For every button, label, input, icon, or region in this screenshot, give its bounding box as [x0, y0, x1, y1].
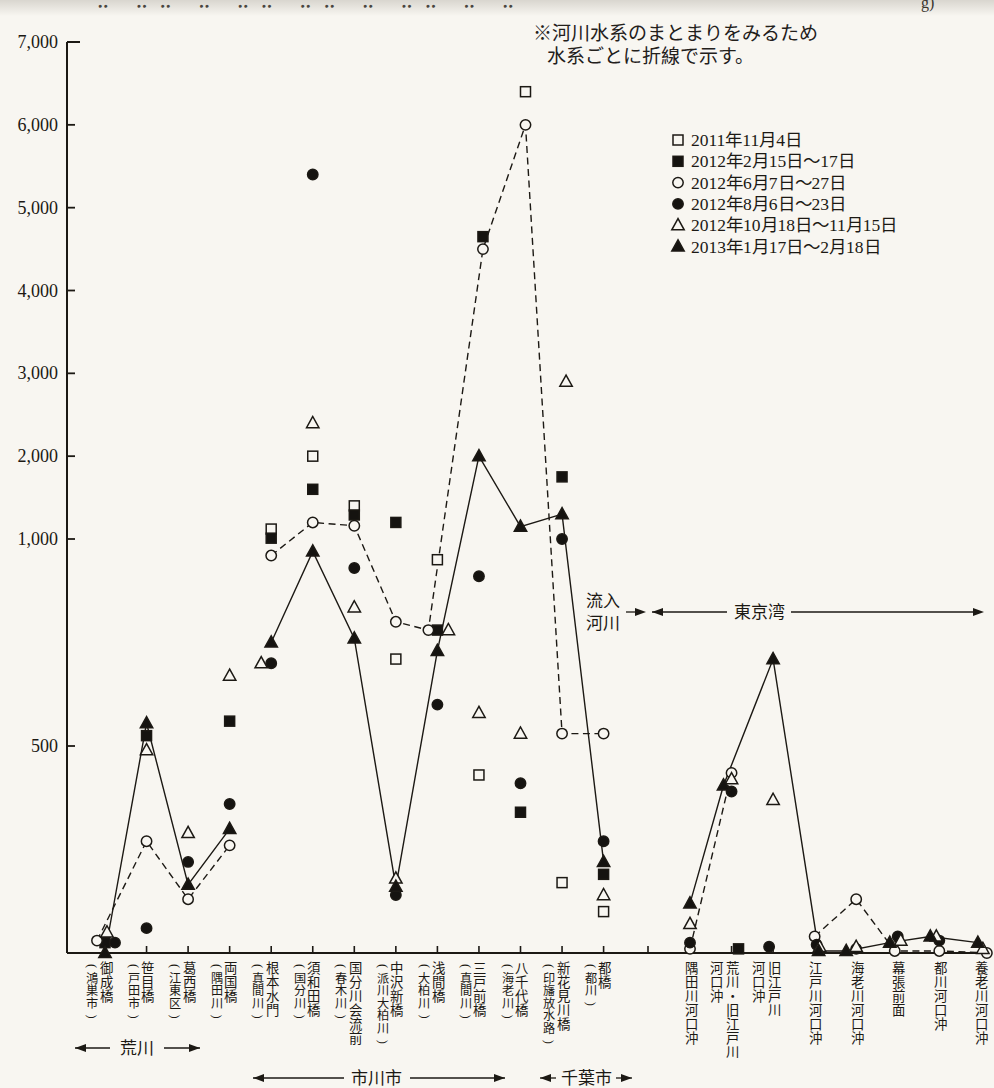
- svg-text:老: 老: [851, 975, 864, 990]
- svg-text:(: (: [251, 964, 265, 968]
- station-river-label: (鴻巣市): [85, 964, 99, 1018]
- svg-text:橋: 橋: [432, 989, 446, 1004]
- svg-text:(: (: [417, 964, 431, 968]
- svg-text:沖: 沖: [685, 1031, 698, 1046]
- region-label-arakawa: 荒川: [120, 1039, 154, 1058]
- svg-text:須: 須: [307, 961, 321, 976]
- svg-text:): ): [85, 1014, 99, 1018]
- station-name-label: 中沢新橋: [390, 961, 404, 1018]
- legend-label: 2012年10月18日〜11月15日: [691, 215, 897, 235]
- svg-text:流: 流: [349, 1017, 362, 1032]
- svg-text:口: 口: [975, 1017, 988, 1032]
- svg-text:口: 口: [851, 1017, 864, 1032]
- square-filled-icon: [673, 156, 683, 166]
- station-river-label: (春木川): [334, 964, 348, 1018]
- station-name-label: 江戸川河口沖: [809, 961, 822, 1046]
- legend-label: 2011年11月4日: [691, 130, 802, 150]
- station-name-label: 国分川会流前: [349, 961, 362, 1046]
- svg-text:沖: 沖: [975, 1031, 988, 1046]
- svg-text:): ): [584, 1002, 598, 1006]
- svg-text:前: 前: [473, 988, 486, 1004]
- solid-line-jan2013: [271, 456, 603, 887]
- svg-text:沖: 沖: [752, 989, 765, 1004]
- svg-text:(: (: [501, 964, 515, 968]
- circle-filled-icon: [673, 199, 683, 209]
- svg-text:戸: 戸: [809, 975, 822, 990]
- svg-text:目: 目: [141, 975, 154, 990]
- y-tick-label: 5,000: [18, 198, 59, 218]
- svg-text:花: 花: [557, 975, 570, 990]
- svg-text:川: 川: [768, 1003, 781, 1018]
- svg-text:川: 川: [335, 997, 347, 1011]
- station-name-cont-label: 河口沖: [752, 961, 765, 1004]
- station-river-label: (江東区): [168, 964, 182, 1018]
- circle-open-icon: [673, 177, 683, 187]
- svg-text:橋: 橋: [183, 989, 197, 1004]
- station-river-label: (隅田川): [210, 964, 224, 1018]
- station-name-label: 八千代橋: [515, 961, 529, 1018]
- y-tick-label: 3,000: [18, 363, 59, 383]
- svg-text:江: 江: [726, 1017, 739, 1032]
- svg-text:橋: 橋: [141, 989, 155, 1004]
- svg-text:橋: 橋: [307, 1003, 321, 1018]
- svg-text:江: 江: [809, 961, 822, 976]
- svg-text:(: (: [127, 964, 141, 968]
- svg-text:川: 川: [934, 975, 947, 990]
- svg-text:橋: 橋: [100, 989, 114, 1004]
- svg-text:(: (: [376, 964, 390, 968]
- svg-text:市: 市: [86, 996, 98, 1011]
- svg-text:葛: 葛: [183, 961, 196, 976]
- svg-text:橋: 橋: [390, 1003, 404, 1018]
- svg-text:区: 区: [169, 997, 181, 1011]
- station-river-label: (真間川): [459, 964, 473, 1018]
- svg-text:戸: 戸: [473, 975, 486, 990]
- svg-text:前: 前: [349, 1030, 362, 1046]
- svg-text:養: 養: [975, 960, 988, 976]
- region-label-tokyo-bay: 東京湾: [734, 603, 785, 622]
- solid-line-jan2013: [690, 659, 978, 951]
- svg-text:江: 江: [768, 975, 781, 990]
- svg-text:): ): [417, 1014, 431, 1018]
- station-name-label: 荒川・旧江戸川: [726, 961, 739, 1060]
- svg-text:旧: 旧: [768, 961, 781, 976]
- y-tick-label: 7,000: [18, 32, 59, 52]
- svg-text:(: (: [85, 964, 99, 968]
- station-name-label: 浅間橋: [432, 961, 446, 1004]
- svg-text:分: 分: [349, 975, 362, 990]
- svg-text:(: (: [459, 964, 473, 968]
- svg-text:海: 海: [851, 961, 864, 976]
- svg-text:川: 川: [975, 989, 988, 1004]
- svg-text:河: 河: [685, 1003, 698, 1018]
- svg-text:): ): [334, 1014, 348, 1018]
- svg-text:八: 八: [515, 961, 529, 976]
- station-name-cont-label: 河口沖: [710, 961, 723, 1004]
- label-inflow-rivers-2: 河川: [586, 614, 620, 633]
- station-name-label: 葛西橋: [183, 961, 197, 1004]
- dashed-line-jun2012: [271, 125, 603, 734]
- svg-text:橋: 橋: [515, 1003, 529, 1018]
- station-labels: 御成橋(鴻巣市)笹目橋(戸田市)葛西橋(江東区)両国橋(隅田川)根本水門(真間川…: [85, 960, 988, 1060]
- svg-text:川: 川: [502, 997, 514, 1011]
- svg-text:沢: 沢: [390, 975, 404, 990]
- station-name-label: 隅田川河口沖: [685, 961, 698, 1046]
- svg-text:): ): [501, 1014, 515, 1018]
- svg-text:川: 川: [809, 989, 822, 1004]
- svg-text:路: 路: [543, 1021, 555, 1036]
- triangle-filled-icon: [672, 240, 684, 251]
- station-name-label: 都橋: [598, 961, 612, 990]
- book-page: ⠤ ⠤⠤ ⠤ ⠤⠤ ⠤⠤ ⠤ ⠤⠤ ⠤ ⠤ g) ※河川水系のまとまりをみるため…: [0, 0, 994, 1088]
- svg-text:国: 国: [349, 961, 362, 976]
- svg-text:橋: 橋: [473, 1003, 487, 1018]
- svg-text:河: 河: [934, 989, 947, 1004]
- y-tick-label: 500: [31, 736, 58, 756]
- svg-text:田: 田: [685, 975, 698, 990]
- svg-text:川: 川: [851, 989, 864, 1004]
- station-name-label: 旧江戸川: [768, 961, 781, 1018]
- svg-text:河: 河: [752, 961, 765, 976]
- svg-text:口: 口: [934, 1003, 947, 1018]
- legend-label: 2012年8月6日〜23日: [691, 194, 846, 214]
- svg-text:千: 千: [515, 975, 528, 990]
- svg-text:和: 和: [307, 975, 320, 990]
- svg-text:張: 張: [892, 975, 905, 990]
- svg-text:新: 新: [390, 989, 403, 1004]
